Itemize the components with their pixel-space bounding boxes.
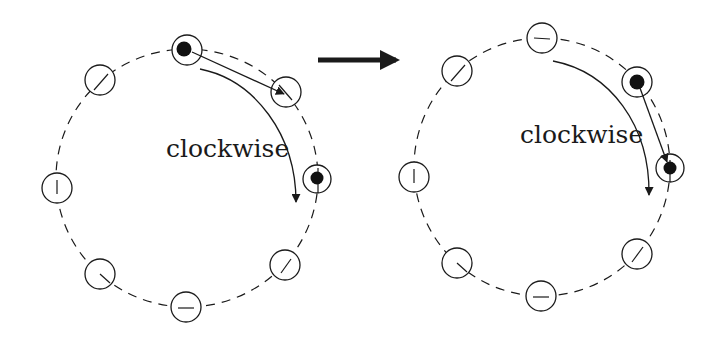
node-upper-right (271, 77, 301, 107)
node-lower-left (85, 259, 115, 289)
panel-after: clockwise (399, 23, 684, 311)
node-lower-right (622, 239, 652, 269)
panel-before: clockwise (42, 35, 331, 322)
node-upper-right (622, 67, 652, 97)
clockwise-label: clockwise (166, 134, 289, 163)
node-lower-right (270, 250, 300, 280)
particle-icon (664, 162, 677, 175)
diagram-canvas: clockwise (0, 0, 721, 342)
hop-arrow (192, 52, 284, 94)
node-upper-left (85, 65, 115, 95)
node-lower-left (442, 248, 472, 278)
node-top (527, 23, 557, 53)
particle-icon (177, 42, 192, 57)
particle-icon (311, 172, 324, 185)
node-right (656, 154, 684, 182)
node-upper-left (442, 56, 472, 86)
clockwise-label: clockwise (520, 120, 643, 149)
particle-icon (630, 75, 645, 90)
node-right (303, 165, 331, 193)
node-top (172, 35, 202, 65)
node-bottom (526, 281, 556, 311)
node-left (399, 162, 429, 192)
node-left (42, 173, 72, 203)
node-bottom (171, 292, 201, 322)
